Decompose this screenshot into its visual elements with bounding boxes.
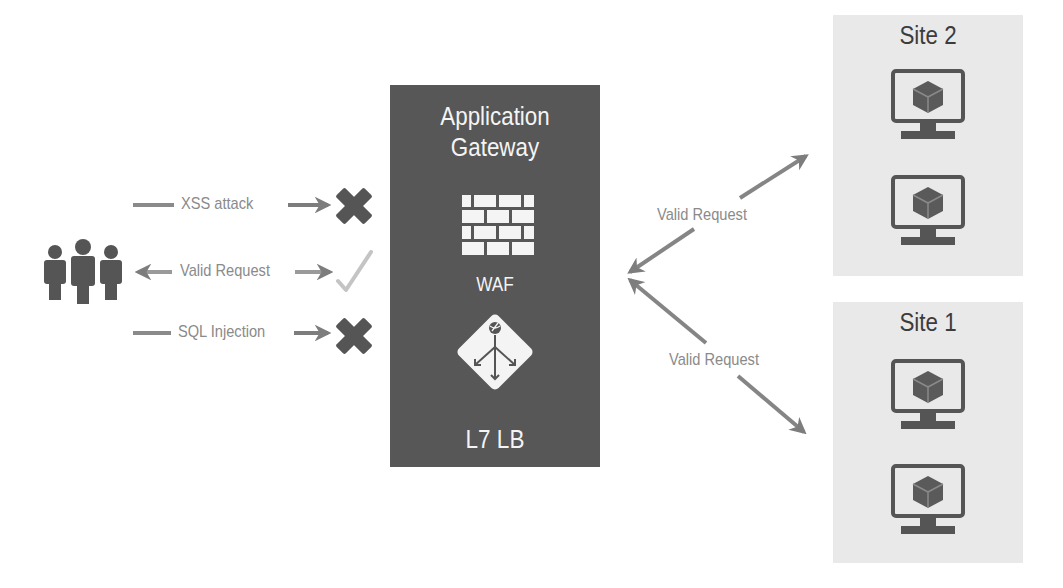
site1-valid-request-label: Valid Request: [669, 350, 759, 370]
site-2-box: Site 2: [833, 15, 1023, 276]
from-site1-arrow: [630, 280, 706, 343]
server-monitor-icon: [891, 69, 965, 141]
site2-valid-request-label: Valid Request: [657, 205, 747, 225]
firewall-brick-icon: [462, 195, 534, 255]
site-2-title: Site 2: [846, 20, 1009, 51]
server-monitor-icon: [891, 175, 965, 247]
x-mark-icon: [326, 308, 383, 365]
x-mark-icon: [326, 178, 383, 235]
application-gateway-box: Application Gateway WAF L7 LB: [390, 85, 600, 467]
site-1-title: Site 1: [846, 307, 1009, 338]
site-1-box: Site 1: [833, 302, 1023, 563]
sql-injection-label: SQL Injection: [178, 322, 265, 342]
server-monitor-icon: [891, 464, 965, 536]
load-balancer-icon: [448, 305, 542, 399]
gateway-title: Application Gateway: [405, 101, 586, 163]
xss-attack-label: XSS attack: [181, 194, 253, 214]
server-monitor-icon: [891, 359, 965, 431]
l7-lb-label: L7 LB: [401, 425, 590, 454]
to-site1-arrow: [738, 376, 804, 432]
valid-request-label: Valid Request: [180, 261, 270, 281]
from-site2-arrow: [630, 229, 694, 272]
waf-label: WAF: [405, 273, 586, 296]
check-mark-icon: [338, 252, 371, 290]
users-icon: [44, 239, 122, 304]
to-site2-arrow: [740, 156, 806, 198]
